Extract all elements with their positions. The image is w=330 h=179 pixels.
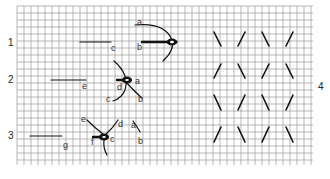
point-label: f: [91, 138, 94, 147]
stitch-diagram: [0, 0, 330, 179]
point-label: e: [82, 82, 87, 91]
point-label: g: [63, 141, 68, 150]
step-number-1: 1: [8, 38, 14, 48]
point-label: a: [131, 121, 136, 130]
point-label: a: [135, 77, 140, 86]
point-label: a: [137, 18, 142, 27]
step-1-stitches: [80, 25, 177, 61]
point-label: c: [110, 135, 115, 144]
point-label: b: [137, 43, 142, 52]
point-label: b: [138, 95, 143, 104]
step-number-4: 4: [318, 82, 324, 92]
point-label: b: [138, 137, 143, 146]
step-2-stitches: [51, 61, 142, 101]
point-label: c: [111, 44, 116, 53]
point-label: d: [117, 83, 122, 92]
point-label: d: [118, 120, 123, 129]
step-number-2: 2: [8, 75, 14, 85]
point-label: e: [81, 115, 86, 124]
step-4-pattern: [214, 32, 293, 142]
point-label: c: [106, 95, 111, 104]
step-number-3: 3: [8, 131, 14, 141]
